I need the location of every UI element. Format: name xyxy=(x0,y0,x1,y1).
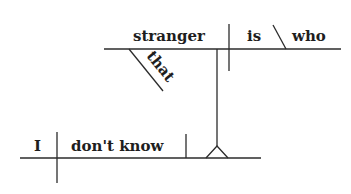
word-who: who xyxy=(291,27,326,45)
word-I: I xyxy=(34,137,41,155)
word-is: is xyxy=(247,27,261,45)
pedestal xyxy=(206,146,228,158)
sentence-diagram: stranger is who that I don't know xyxy=(0,0,351,194)
word-dont-know: don't know xyxy=(71,137,164,155)
predicate-nominative-slant xyxy=(273,25,286,49)
word-stranger: stranger xyxy=(133,27,206,45)
word-that: that xyxy=(143,47,179,85)
